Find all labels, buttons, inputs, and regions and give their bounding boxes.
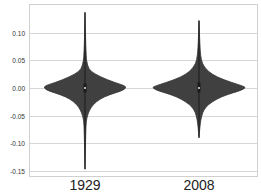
y-tick-label: -0.15 <box>10 168 25 175</box>
y-tick-label: -0.05 <box>10 113 25 120</box>
y-tick-label: 0.00 <box>12 85 25 92</box>
y-tick-label: -0.10 <box>10 140 25 147</box>
median-marker <box>198 87 200 89</box>
chart-background <box>0 0 261 195</box>
x-tick-label: 2008 <box>183 177 214 193</box>
x-tick-label: 1929 <box>69 177 100 193</box>
median-marker <box>84 87 86 89</box>
y-tick-label: 0.10 <box>12 30 25 37</box>
y-tick-label: 0.05 <box>12 57 25 64</box>
violin-chart: 0.100.050.00-0.05-0.10-0.15 19292008 <box>0 0 261 195</box>
